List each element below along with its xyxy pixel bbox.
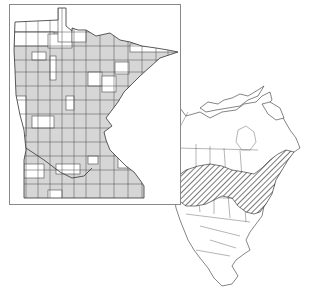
distribution-map — [0, 0, 310, 296]
county-absent — [24, 164, 44, 178]
county-absent — [56, 164, 80, 174]
county-absent — [32, 116, 54, 128]
county-absent — [32, 52, 46, 60]
county-absent — [88, 156, 98, 164]
county-absent — [66, 96, 74, 110]
county-absent — [50, 56, 56, 80]
